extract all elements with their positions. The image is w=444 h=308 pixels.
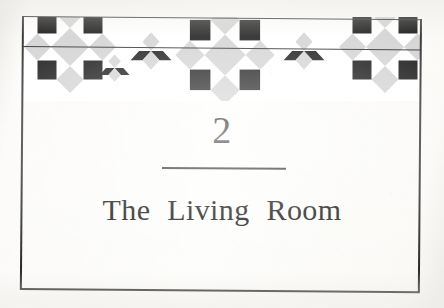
chapter-opening-page: 2 The Living Room (0, 0, 444, 308)
page-frame (20, 16, 422, 292)
chapter-title: The Living Room (0, 190, 444, 230)
chapter-number: 2 (0, 110, 444, 150)
